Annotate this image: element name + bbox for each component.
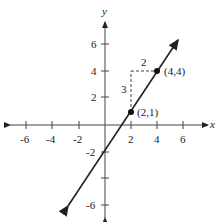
x-axis: -6 -4 -2 2 4 6 x [10,118,215,145]
points: (2,1) (4,4) [128,65,185,119]
plotted-line [68,40,178,206]
svg-text:4: 4 [154,133,160,145]
svg-text:-6: -6 [86,199,96,211]
svg-text:6: 6 [91,38,97,50]
slope-triangle: 2 3 [121,56,157,112]
svg-text:-2: -2 [73,133,82,145]
svg-text:2: 2 [141,56,147,68]
svg-text:2: 2 [128,133,134,145]
svg-text:x: x [209,118,215,130]
y-axis: 6 4 2 -2 -6 y [86,5,109,218]
svg-text:2: 2 [91,91,97,103]
svg-text:4: 4 [91,65,97,77]
svg-text:-6: -6 [20,133,30,145]
svg-text:(4,4): (4,4) [164,65,185,78]
svg-text:3: 3 [121,83,127,95]
svg-text:-4: -4 [46,133,56,145]
graph: -6 -4 -2 2 4 6 x 6 4 2 -2 -6 y 2 3 (2,1)… [0,0,219,222]
svg-text:6: 6 [180,133,186,145]
svg-text:-2: -2 [86,146,95,158]
coordinate-plane: -6 -4 -2 2 4 6 x 6 4 2 -2 -6 y 2 3 (2,1)… [0,0,219,222]
svg-text:y: y [101,5,107,17]
svg-text:(2,1): (2,1) [137,106,158,119]
